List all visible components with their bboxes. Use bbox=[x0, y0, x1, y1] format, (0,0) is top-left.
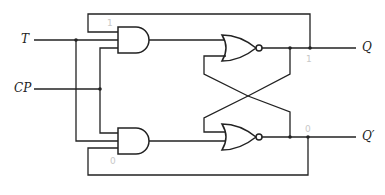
and-gate-top bbox=[118, 27, 149, 53]
nor-gate-top bbox=[222, 35, 256, 61]
pencil-mark-q: 1 bbox=[306, 54, 312, 64]
pencil-mark-top-and: 1 bbox=[107, 18, 113, 28]
junction-qprime-cross bbox=[288, 135, 292, 139]
nor-gate-bottom bbox=[222, 124, 256, 150]
junction-q-feedback bbox=[308, 46, 312, 50]
junction-q-cross bbox=[288, 46, 292, 50]
junction-t bbox=[74, 38, 78, 42]
wire-cp-to-ands bbox=[100, 48, 118, 133]
label-q-prime: Q′ bbox=[362, 129, 375, 143]
wire-t-to-bottom-and bbox=[76, 40, 118, 141]
t-flip-flop-circuit bbox=[0, 0, 385, 195]
wire-q-to-nor-bottom bbox=[204, 48, 290, 132]
label-t: T bbox=[21, 32, 29, 46]
nor-top-bubble bbox=[256, 45, 262, 51]
junction-qprime-feedback bbox=[306, 135, 310, 139]
label-cp: CP bbox=[14, 81, 31, 95]
junction-cp bbox=[98, 87, 102, 91]
and-gate-bottom bbox=[118, 128, 149, 154]
pencil-mark-qprime: 0 bbox=[305, 124, 311, 134]
label-q: Q bbox=[362, 40, 372, 54]
pencil-mark-bottom-and: 0 bbox=[110, 156, 116, 166]
nor-bottom-bubble bbox=[256, 134, 262, 140]
